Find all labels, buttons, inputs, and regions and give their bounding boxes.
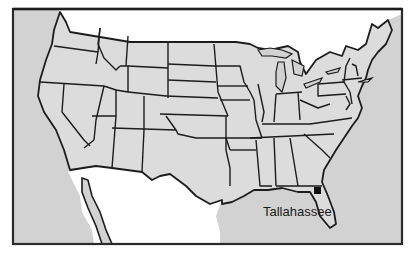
tallahassee-label: Tallahassee — [263, 204, 332, 219]
us-map: Tallahassee — [0, 0, 413, 256]
tallahassee-marker — [314, 187, 321, 194]
